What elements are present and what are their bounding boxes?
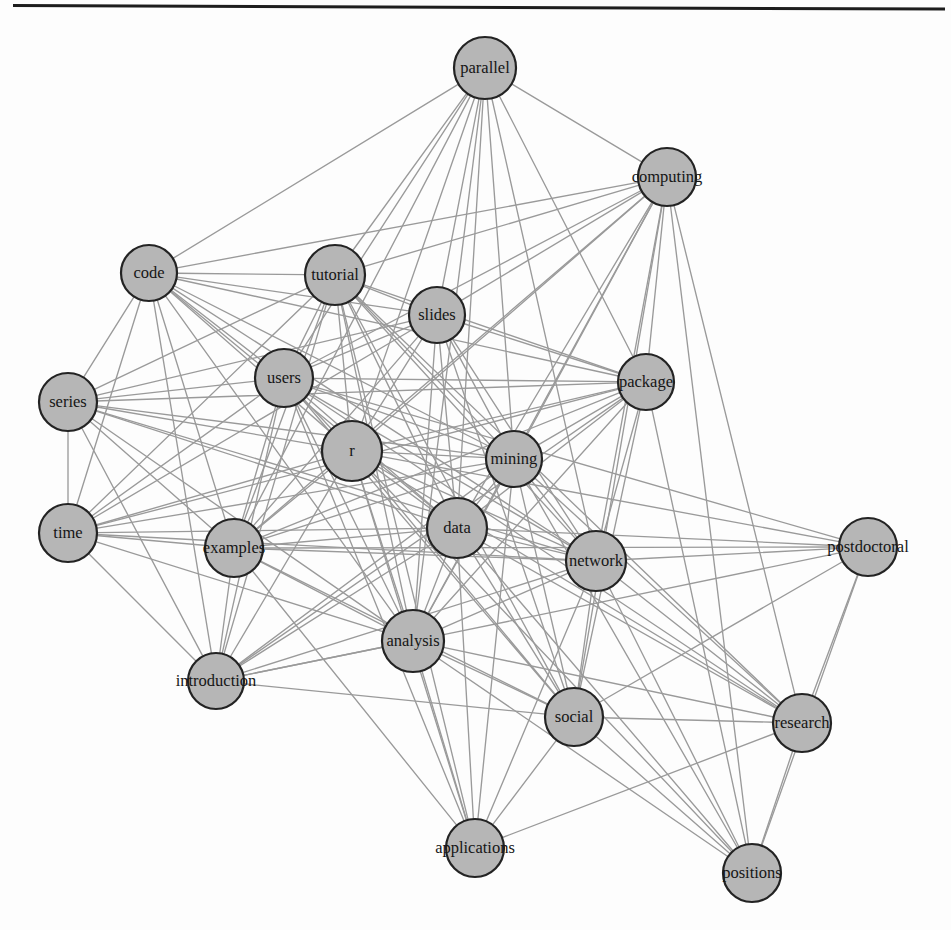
graph-node-positions[interactable]: positions [722, 844, 782, 902]
graph-edge [362, 96, 476, 423]
graph-edge [377, 466, 778, 709]
graph-node-examples[interactable]: examples [203, 519, 265, 577]
graph-edge [602, 718, 774, 723]
graph-edge [88, 553, 197, 662]
graph-edge [670, 205, 748, 845]
graph-node-mining[interactable]: mining [486, 431, 542, 487]
graph-edge [463, 323, 621, 374]
node-label: series [49, 392, 87, 411]
graph-edge [812, 573, 858, 697]
graph-edge [501, 733, 776, 838]
graph-edge [352, 92, 467, 251]
graph-edge [619, 579, 780, 706]
graph-edge [492, 739, 557, 825]
graph-edge [362, 286, 412, 306]
graph-node-slides[interactable]: slides [409, 287, 465, 343]
node-label: network [569, 551, 624, 570]
node-label: data [443, 518, 471, 537]
graph-edge [259, 561, 387, 627]
graph-node-code[interactable]: code [121, 245, 177, 301]
graph-edge [338, 304, 349, 422]
graph-edge [424, 555, 447, 613]
graph-edge [96, 383, 619, 401]
figure-canvas: parallelcomputingcodetutorialslidesusers… [0, 0, 951, 930]
graph-node-applications[interactable]: applications [435, 819, 515, 877]
node-label: postdoctoral [827, 537, 909, 556]
node-label: slides [418, 305, 456, 324]
node-label: computing [632, 167, 703, 186]
node-label: package [619, 372, 673, 391]
graph-edge [172, 84, 459, 259]
graph-edge [472, 553, 559, 694]
graph-edge [262, 531, 428, 546]
graph-node-research[interactable]: research [773, 694, 831, 752]
graph-node-r[interactable]: r [322, 421, 382, 481]
node-label: users [267, 368, 301, 387]
graph-edge [761, 750, 793, 847]
graph-edge [91, 394, 262, 516]
graph-node-social[interactable]: social [545, 688, 603, 746]
node-layer: parallelcomputingcodetutorialslidesusers… [39, 37, 909, 902]
graph-edge [176, 277, 411, 311]
graph-node-analysis[interactable]: analysis [382, 610, 444, 672]
node-label: code [133, 263, 164, 282]
node-label: mining [491, 449, 538, 468]
graph-node-network[interactable]: network [566, 531, 626, 591]
node-label: parallel [460, 58, 510, 77]
node-label: r [349, 441, 355, 460]
graph-edge [598, 561, 844, 703]
graph-edge [262, 549, 567, 560]
graph-edge [511, 83, 643, 162]
graph-node-data[interactable]: data [427, 498, 487, 558]
node-label: analysis [386, 631, 439, 650]
graph-edge [170, 290, 262, 361]
node-label: positions [722, 863, 782, 882]
node-label: introduction [176, 671, 257, 690]
graph-edge [96, 407, 324, 446]
node-label: examples [203, 538, 265, 557]
graph-edge [422, 670, 467, 821]
graph-edge [262, 547, 840, 548]
graph-node-package[interactable]: package [618, 354, 674, 410]
graph-edge [625, 548, 840, 559]
graph-node-series[interactable]: series [39, 373, 97, 431]
graph-node-users[interactable]: users [255, 349, 313, 407]
node-label: tutorial [311, 265, 359, 284]
graph-edge [442, 553, 840, 635]
graph-node-time[interactable]: time [39, 504, 97, 562]
network-graph: parallelcomputingcodetutorialslidesusers… [0, 0, 951, 930]
node-label: time [53, 523, 82, 542]
graph-edge [649, 205, 664, 355]
graph-edge [83, 296, 135, 378]
node-label: applications [435, 838, 515, 857]
graph-edge [499, 95, 634, 358]
node-label: research [775, 713, 831, 732]
graph-node-postdoctoral[interactable]: postdoctoral [827, 518, 909, 576]
graph-edge [342, 303, 468, 821]
graph-edge [176, 273, 306, 274]
edge-layer [68, 83, 859, 857]
graph-edge [579, 205, 663, 690]
graph-node-tutorial[interactable]: tutorial [305, 245, 365, 305]
graph-edge [460, 191, 643, 301]
graph-node-parallel[interactable]: parallel [454, 37, 516, 99]
graph-edge [609, 587, 740, 848]
graph-edge [176, 182, 640, 268]
graph-edge [243, 684, 546, 715]
node-label: social [555, 707, 594, 726]
graph-edge [89, 420, 213, 529]
